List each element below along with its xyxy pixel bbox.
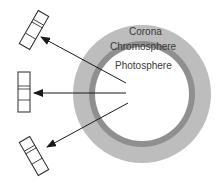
sun-diagram [0,0,222,190]
spectrum-strip-middle [18,72,30,112]
chromosphere-label: Chromosphere [110,41,176,52]
spectrum-strip-top [19,11,48,50]
spectrum-strip-bottom [19,137,48,176]
photosphere-label: Photosphere [115,60,172,71]
corona-label: Corona [129,26,162,37]
